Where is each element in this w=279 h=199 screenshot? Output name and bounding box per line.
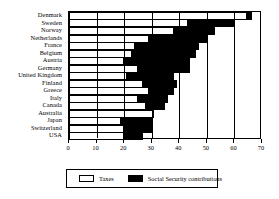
- legend-swatch-taxes: [79, 175, 94, 182]
- category-label: USA: [0, 131, 64, 139]
- gridline: [152, 12, 153, 138]
- x-tick-label: 20: [120, 143, 126, 152]
- legend-swatch-social-security: [128, 175, 143, 182]
- bars-layer: [69, 12, 260, 138]
- x-tick-label: 50: [203, 143, 209, 152]
- tax-revenue-bar-chart: DenmarkSwedenNorwayNetherlandsFranceBelg…: [0, 0, 279, 199]
- plot-wrapper: DenmarkSwedenNorwayNetherlandsFranceBelg…: [0, 0, 279, 145]
- legend-item-social-security: Social Security contributions: [128, 175, 222, 182]
- category-axis-labels: DenmarkSwedenNorwayNetherlandsFranceBelg…: [0, 11, 66, 139]
- gridline: [234, 12, 235, 138]
- x-axis-tick-labels: 010203040506070: [0, 143, 279, 152]
- x-tick-label: 0: [66, 143, 69, 152]
- x-tick-label: 10: [92, 143, 98, 152]
- gridline: [124, 12, 125, 138]
- gridline: [207, 12, 208, 138]
- x-tick-label: 30: [148, 143, 154, 152]
- gridline: [179, 12, 180, 138]
- legend-label-taxes: Taxes: [99, 175, 114, 182]
- x-tick-label: 60: [230, 143, 236, 152]
- gridline: [97, 12, 98, 138]
- legend-item-taxes: Taxes: [79, 175, 114, 182]
- plot-area: [68, 11, 261, 139]
- chart-legend: Taxes Social Security contributions: [66, 169, 218, 188]
- x-tick-label: 40: [175, 143, 181, 152]
- legend-label-social-security: Social Security contributions: [148, 175, 222, 182]
- x-tick-label: 70: [258, 143, 264, 152]
